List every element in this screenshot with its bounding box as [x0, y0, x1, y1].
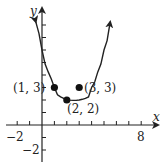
y-tick-label-neg2: −2: [22, 143, 40, 157]
x-tick-label-neg2: −2: [6, 130, 24, 144]
point-label-3-3: (3, 3): [84, 81, 116, 95]
y-axis-label: y: [29, 4, 37, 18]
point-label-2-2: (2, 2): [67, 102, 99, 116]
x-tick-label-8: 8: [137, 130, 145, 144]
x-axis-label: x: [153, 110, 160, 124]
point-label-1-3: (1, 3): [13, 81, 45, 95]
parabola-graph: (1, 3) (2, 2) (3, 3) x y −2 8 −2: [0, 0, 162, 164]
point-1-3: [51, 84, 58, 91]
point-3-3: [76, 84, 83, 91]
